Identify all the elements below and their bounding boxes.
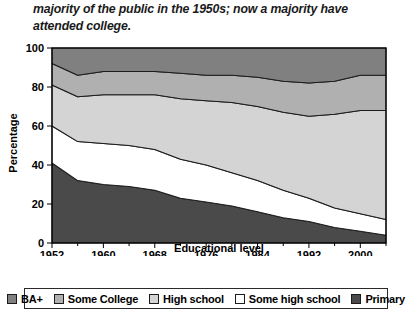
legend-swatch <box>54 294 64 304</box>
stacked-area-chart: 1952196019681976198419922000 02040608010… <box>0 38 412 256</box>
x-axis-title: Educational level <box>174 242 264 254</box>
y-axis-tick-labels: 020406080100 <box>26 42 44 249</box>
legend-label: BA+ <box>21 293 43 305</box>
legend-label: Some College <box>68 293 138 305</box>
y-axis-title: Percentage <box>7 113 19 172</box>
legend-item-primary[interactable]: Primary <box>351 293 405 305</box>
legend-label: Primary <box>365 293 405 305</box>
y-tick-label: 20 <box>32 198 44 210</box>
legend-label: Some high school <box>249 293 341 305</box>
y-tick-label: 60 <box>32 120 44 132</box>
chart-areas <box>52 48 386 243</box>
legend-item-some-college[interactable]: Some College <box>54 293 138 305</box>
legend-item-ba-[interactable]: BA+ <box>7 293 43 305</box>
legend-item-some-high-school[interactable]: Some high school <box>235 293 341 305</box>
x-tick-label: 1952 <box>40 249 64 256</box>
legend-swatch <box>7 294 17 304</box>
y-tick-label: 40 <box>32 159 44 171</box>
y-tick-label: 100 <box>26 42 44 54</box>
x-tick-label: 1968 <box>143 249 167 256</box>
x-tick-label: 1960 <box>91 249 115 256</box>
legend-item-high-school[interactable]: High school <box>149 293 224 305</box>
legend-swatch <box>149 294 159 304</box>
legend-swatch <box>351 294 361 304</box>
legend-label: High school <box>163 293 224 305</box>
chart-legend: BA+Some CollegeHigh schoolSome high scho… <box>24 288 388 309</box>
legend-swatch <box>235 294 245 304</box>
y-tick-label: 80 <box>32 81 44 93</box>
x-tick-label: 2000 <box>348 249 372 256</box>
y-axis-ticks <box>47 48 52 243</box>
x-tick-label: 1992 <box>297 249 321 256</box>
chart-svg: 1952196019681976198419922000 02040608010… <box>0 38 412 256</box>
figure-caption: majority of the public in the 1950s; now… <box>33 1 393 34</box>
y-tick-label: 0 <box>38 237 44 249</box>
